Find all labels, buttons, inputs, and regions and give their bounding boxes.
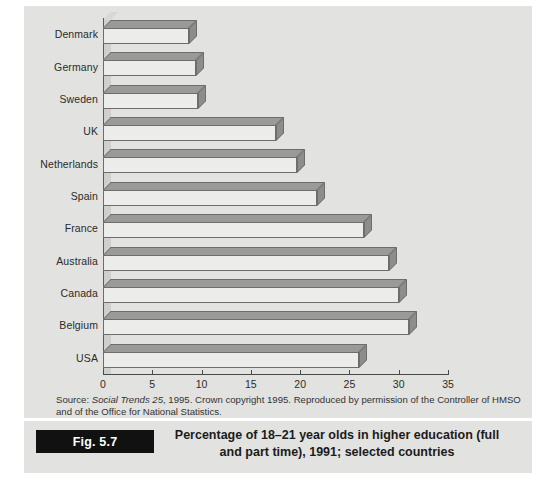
source-prefix: Source: bbox=[56, 394, 92, 405]
bar-top-face bbox=[103, 311, 417, 319]
chart-panel: DenmarkGermanySwedenUKNetherlandsSpainFr… bbox=[24, 6, 532, 418]
bar-front-face bbox=[103, 287, 399, 303]
bar-australia bbox=[103, 247, 398, 272]
figure-page: DenmarkGermanySwedenUKNetherlandsSpainFr… bbox=[0, 0, 556, 494]
bar-top-face bbox=[103, 214, 372, 222]
bar-top-face bbox=[103, 344, 367, 352]
bar-top-face bbox=[103, 279, 407, 287]
caption-line-2: and part time), 1991; selected countries bbox=[220, 445, 455, 459]
bar-front-face bbox=[103, 157, 297, 173]
bar-front-face bbox=[103, 255, 389, 271]
bar-front-face bbox=[103, 190, 317, 206]
bar-netherlands bbox=[103, 149, 306, 174]
bar-canada bbox=[103, 279, 408, 304]
bar-spain bbox=[103, 182, 326, 207]
bar-top-face bbox=[103, 85, 206, 93]
bar-top-face bbox=[103, 117, 284, 125]
bar-top-face bbox=[103, 149, 305, 157]
source-publication: Social Trends 25 bbox=[92, 394, 163, 405]
bar-denmark bbox=[103, 20, 198, 45]
bar-top-face bbox=[103, 182, 325, 190]
bar-germany bbox=[103, 52, 205, 77]
bar-belgium bbox=[103, 311, 418, 336]
bar-top-face bbox=[103, 20, 197, 28]
bar-uk bbox=[103, 117, 285, 142]
bar-top-face bbox=[103, 247, 397, 255]
bar-front-face bbox=[103, 28, 189, 44]
source-note: Source: Social Trends 25, 1995. Crown co… bbox=[56, 394, 522, 418]
bar-front-face bbox=[103, 125, 276, 141]
bar-front-face bbox=[103, 352, 359, 368]
figure-caption: Percentage of 18–21 year olds in higher … bbox=[164, 427, 510, 461]
bar-front-face bbox=[103, 319, 409, 335]
bar-series bbox=[24, 6, 532, 418]
caption-line-1: Percentage of 18–21 year olds in higher … bbox=[175, 428, 499, 442]
caption-band: Fig. 5.7 Percentage of 18–21 year olds i… bbox=[24, 421, 532, 473]
plot-area: DenmarkGermanySwedenUKNetherlandsSpainFr… bbox=[24, 6, 532, 418]
bar-top-face bbox=[103, 52, 204, 60]
bar-front-face bbox=[103, 60, 196, 76]
source-line2: and of the Office for National Statistic… bbox=[56, 406, 222, 417]
bar-front-face bbox=[103, 222, 364, 238]
bar-france bbox=[103, 214, 373, 239]
bar-front-face bbox=[103, 93, 198, 109]
source-suffix: , 1995. Crown copyright 1995. Reproduced… bbox=[163, 394, 521, 405]
figure-number-badge: Fig. 5.7 bbox=[36, 430, 154, 453]
bar-usa bbox=[103, 344, 368, 369]
bar-sweden bbox=[103, 85, 207, 110]
